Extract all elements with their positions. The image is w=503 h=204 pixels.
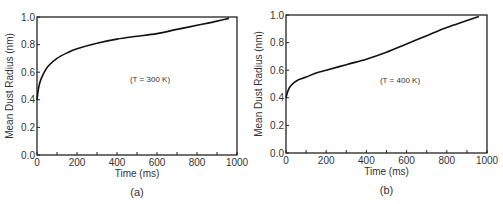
x-axis-label: Time (ms) — [364, 166, 409, 177]
y-axis-label: Mean Dust Radius (nm) — [253, 31, 264, 137]
y-tick-label: 0.4 — [21, 94, 35, 105]
y-tick-label: 0.4 — [270, 92, 284, 103]
x-tick-label: 0 — [283, 155, 289, 166]
panel-label: (b) — [380, 184, 393, 196]
x-tick-label: 200 — [318, 155, 335, 166]
y-tick-label: 0.8 — [270, 37, 284, 48]
y-tick-label: 1.0 — [21, 12, 35, 23]
data-line — [286, 16, 479, 97]
chart-panel-b: 020040060080010000.00.20.40.60.81.0Time … — [253, 10, 499, 197]
x-tick-label: 800 — [438, 155, 455, 166]
y-tick-label: 0.2 — [270, 120, 284, 131]
y-tick-label: 0.8 — [21, 39, 35, 50]
x-tick-label: 1000 — [476, 155, 499, 166]
x-tick-label: 400 — [358, 155, 375, 166]
y-tick-label: 0.0 — [270, 148, 284, 159]
x-tick-label: 400 — [109, 157, 126, 168]
y-tick-label: 0.6 — [21, 67, 35, 78]
chart-panel-a: 020040060080010000.00.20.40.60.81.0Time … — [4, 12, 249, 199]
y-axis-label: Mean Dust Radius (nm) — [4, 33, 15, 139]
temperature-annotation: (T = 300 K) — [130, 75, 170, 84]
x-tick-label: 0 — [34, 157, 40, 168]
data-line — [37, 18, 229, 99]
x-tick-label: 1000 — [226, 157, 249, 168]
x-axis-label: Time (ms) — [115, 168, 160, 179]
plot-frame — [37, 17, 237, 155]
y-tick-label: 1.0 — [270, 10, 284, 21]
y-tick-label: 0.0 — [21, 150, 35, 161]
x-tick-label: 600 — [149, 157, 166, 168]
y-tick-label: 0.2 — [21, 122, 35, 133]
temperature-annotation: (T = 400 K) — [380, 76, 420, 85]
x-tick-label: 800 — [189, 157, 206, 168]
x-tick-label: 200 — [69, 157, 86, 168]
figure: 020040060080010000.00.20.40.60.81.0Time … — [0, 0, 503, 204]
panel-label: (a) — [130, 186, 143, 198]
y-tick-label: 0.6 — [270, 65, 284, 76]
x-tick-label: 600 — [398, 155, 415, 166]
